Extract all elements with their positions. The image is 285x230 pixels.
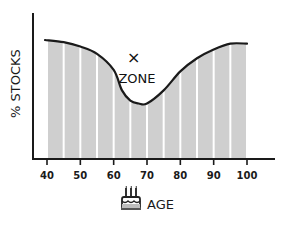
bar (231, 44, 246, 159)
bar (165, 71, 180, 159)
bar (215, 44, 230, 159)
bar (98, 54, 113, 159)
annotation-zone: ZONE (118, 71, 155, 86)
x-tick-label: 50 (73, 170, 87, 181)
bars-group (48, 40, 246, 159)
chart: 405060708090100 % STOCKS × ZONE AGE (0, 0, 285, 230)
x-tick-label: 80 (173, 170, 187, 181)
x-tick-label: 100 (237, 170, 258, 181)
bar (48, 40, 63, 159)
bar (198, 50, 213, 160)
y-axis-label: % STOCKS (8, 49, 23, 118)
bar (131, 101, 146, 159)
bar (181, 58, 196, 159)
bar (81, 47, 96, 159)
x-tick-label: 40 (40, 170, 54, 181)
annotation-x-mark: × (127, 48, 140, 67)
x-tick-label: 70 (140, 170, 154, 181)
x-ticks-group: 405060708090100 (40, 159, 257, 181)
birthday-cake-icon (121, 186, 141, 210)
x-tick-label: 60 (107, 170, 121, 181)
bar (65, 42, 80, 159)
x-tick-label: 90 (207, 170, 221, 181)
x-axis-label: AGE (147, 197, 174, 212)
